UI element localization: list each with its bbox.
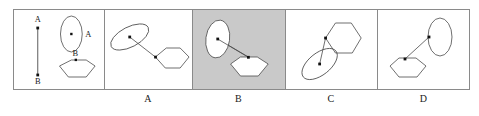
option-d-ellipse (428, 18, 452, 56)
option-d-ellipse-dot (428, 36, 431, 39)
panel-strip: A B A B (13, 9, 470, 90)
option-d-connector (405, 37, 429, 59)
option-d-graphic (378, 10, 469, 89)
option-c-ellipse-dot (318, 63, 321, 66)
option-c-hexagon-dot (324, 37, 327, 40)
vector-start-label: A (35, 14, 42, 24)
option-panel-a[interactable] (105, 10, 193, 89)
reference-ellipse-label: A (85, 29, 92, 39)
reference-hexagon: B (59, 48, 95, 77)
option-label-b: B (192, 92, 285, 114)
option-panel-c[interactable] (286, 10, 378, 89)
option-label-row: A B C D (13, 92, 470, 114)
option-b-hexagon (231, 57, 269, 76)
reference-panel-graphic: A B A B (14, 10, 104, 89)
ellipse-center-dot (70, 33, 72, 35)
option-a-hexagon (155, 48, 189, 68)
option-b-hexagon-dot (247, 56, 250, 59)
option-panel-d[interactable] (378, 10, 469, 89)
option-a-hexagon-dot (154, 56, 157, 59)
vector-end-label: B (35, 76, 41, 86)
option-b-graphic (193, 10, 285, 89)
option-label-c: C (285, 92, 377, 114)
option-label-d: D (377, 92, 470, 114)
option-c-graphic (286, 10, 377, 89)
option-b-ellipse-dot (216, 38, 219, 41)
vector-start-dot (36, 27, 39, 30)
hexagon-outline (59, 60, 95, 77)
reference-panel: A B A B (14, 10, 105, 89)
option-a-ellipse-dot (128, 36, 131, 39)
option-d-hexagon (390, 58, 426, 77)
spatial-reasoning-figure: A B A B (0, 0, 479, 116)
option-a-graphic (105, 10, 192, 89)
reference-vector: A B (35, 14, 42, 86)
hexagon-top-dot (75, 59, 77, 61)
reference-label-spacer (13, 92, 104, 114)
reference-hexagon-label: B (73, 48, 79, 58)
option-d-hexagon-dot (404, 58, 407, 61)
option-panel-b[interactable] (193, 10, 286, 89)
option-label-a: A (104, 92, 192, 114)
reference-ellipse: A (60, 16, 92, 52)
